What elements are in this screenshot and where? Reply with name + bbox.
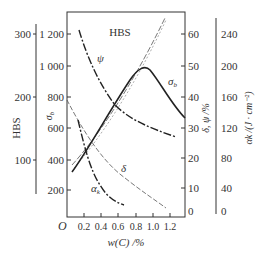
svg-text:160: 160	[221, 91, 238, 103]
svg-text:1.0: 1.0	[147, 221, 160, 232]
hbs-tick: 300	[15, 28, 32, 40]
chart: 300 200 100 HBS 1 200 1 000 800 600 400 …	[0, 0, 263, 264]
hbs-tick: 200	[15, 91, 32, 103]
svg-text:0.6: 0.6	[112, 221, 125, 232]
x-axis: O 0.2 0.4 0.6 0.8 1.0 1.2 w(C) /%	[58, 219, 176, 249]
svg-text:200: 200	[48, 184, 65, 196]
svg-text:1 000: 1 000	[39, 60, 64, 72]
hbs-curve-label: HBS	[109, 26, 130, 38]
svg-text:240: 240	[221, 28, 238, 40]
svg-text:30: 30	[188, 122, 200, 134]
svg-text:20: 20	[188, 152, 200, 164]
delta-curve	[67, 100, 166, 208]
hbs-tick: 100	[15, 154, 32, 166]
sigma-b-axis: 1 200 1 000 800 600 400 200 σb	[39, 28, 64, 196]
svg-text:0.4: 0.4	[95, 221, 108, 232]
curve-labels: HBS ψ σb δ αk	[91, 26, 177, 196]
hbs-axis: 300 200 100 HBS	[10, 24, 36, 194]
svg-text:0: 0	[221, 205, 227, 217]
svg-text:600: 600	[48, 122, 65, 134]
svg-text:200: 200	[221, 60, 238, 72]
curves	[67, 18, 185, 208]
svg-text:0: 0	[188, 205, 194, 217]
svg-text:50: 50	[188, 60, 200, 72]
delta-curve-label: δ	[121, 162, 127, 174]
svg-text:0.2: 0.2	[78, 221, 91, 232]
x-axis-label: w(C) /%	[108, 236, 145, 249]
sigma-b-curve-label: σb	[168, 75, 177, 89]
svg-text:60: 60	[188, 28, 200, 40]
origin-label: O	[58, 219, 67, 233]
delta-psi-axis: 60 50 40 30 20 10 0 δ, ψ /%	[188, 28, 211, 217]
svg-text:10: 10	[188, 182, 200, 194]
svg-text:400: 400	[48, 154, 65, 166]
psi-curve-label: ψ	[97, 52, 104, 64]
svg-text:120: 120	[221, 122, 238, 134]
hbs-axis-label: HBS	[10, 117, 22, 138]
svg-text:800: 800	[48, 91, 65, 103]
sigma-b-axis-label: σb	[43, 111, 56, 120]
ak-curve	[78, 120, 124, 205]
svg-text:0.8: 0.8	[130, 221, 143, 232]
ak-axis-label: αk /(J · cm⁻²)	[243, 91, 255, 145]
ak-axis: 240 200 160 120 80 40 0 αk /(J · cm⁻²)	[216, 18, 255, 217]
svg-text:1.2: 1.2	[164, 221, 177, 232]
delta-psi-axis-label: δ, ψ /%	[200, 103, 211, 132]
svg-text:80: 80	[221, 152, 233, 164]
svg-text:1 200: 1 200	[39, 28, 64, 40]
svg-text:40: 40	[188, 91, 200, 103]
svg-text:40: 40	[221, 182, 233, 194]
hbs-curve	[72, 18, 165, 165]
